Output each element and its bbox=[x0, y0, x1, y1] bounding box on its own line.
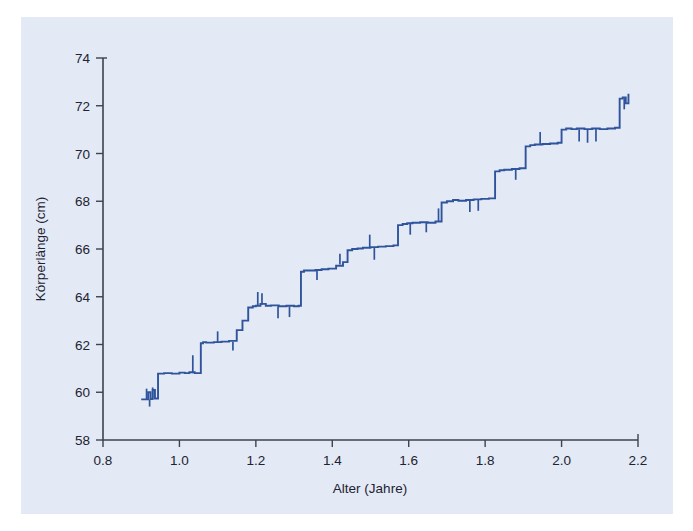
y-tick-label: 58 bbox=[75, 433, 90, 448]
y-tick-label: 60 bbox=[75, 385, 90, 400]
y-tick-label: 74 bbox=[75, 51, 91, 66]
y-tick-label: 68 bbox=[75, 194, 90, 209]
x-tick-label: 1.0 bbox=[170, 453, 189, 468]
y-tick-label: 62 bbox=[75, 338, 90, 353]
y-tick-label: 64 bbox=[75, 290, 91, 305]
x-tick-label: 1.2 bbox=[246, 453, 265, 468]
y-tick-label: 66 bbox=[75, 242, 90, 257]
x-tick-group: 0.81.01.21.41.61.82.02.2 bbox=[94, 440, 648, 468]
x-tick-label: 1.4 bbox=[323, 453, 342, 468]
y-tick-label: 70 bbox=[75, 147, 90, 162]
x-tick-label: 1.6 bbox=[399, 453, 418, 468]
y-tick-group: 586062646668707274 bbox=[75, 51, 103, 448]
data-series-group bbox=[141, 94, 628, 400]
x-tick-label: 0.8 bbox=[94, 453, 113, 468]
y-tick-label: 72 bbox=[75, 99, 90, 114]
growth-chart: 586062646668707274 0.81.01.21.41.61.82.0… bbox=[0, 0, 693, 531]
axis-spines bbox=[103, 58, 638, 440]
data-line-koerperlaenge bbox=[141, 94, 628, 400]
x-tick-label: 2.2 bbox=[629, 453, 648, 468]
figure-root: 586062646668707274 0.81.01.21.41.61.82.0… bbox=[0, 0, 693, 531]
x-tick-label: 1.8 bbox=[476, 453, 495, 468]
axes-group bbox=[103, 58, 638, 440]
x-tick-label: 2.0 bbox=[552, 453, 571, 468]
x-axis-title: Alter (Jahre) bbox=[333, 481, 407, 496]
y-axis-title: Körperlänge (cm) bbox=[33, 197, 48, 301]
